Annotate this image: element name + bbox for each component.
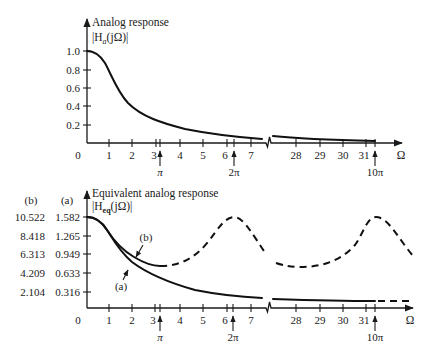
top-analog-response-curve-tail xyxy=(273,136,375,141)
bottom-xtick-label: 29 xyxy=(315,314,327,326)
figure: 1.0 0.8 0.6 0.4 0.2 0 1 2 3 4 5 6 7 xyxy=(0,0,432,352)
top-ytick-label: 1.0 xyxy=(66,45,80,57)
bottom-ytick-b-label: 4.209 xyxy=(20,267,45,279)
bottom-pi-label: π xyxy=(157,331,163,343)
bottom-xtick-label: 4 xyxy=(177,314,183,326)
top-origin-label: 0 xyxy=(75,149,81,161)
bottom-y-axis-label: |Heq(jΩ)| xyxy=(92,200,132,215)
curve-a-tail xyxy=(273,299,375,301)
bottom-chart-title: Equivalent analog response xyxy=(92,187,218,200)
bottom-ytick-b-label: 2.104 xyxy=(20,286,45,298)
bottom-xtick-label: 31 xyxy=(359,314,370,326)
bottom-xtick-label: 1 xyxy=(106,314,112,326)
top-chart: 1.0 0.8 0.6 0.4 0.2 0 1 2 3 4 5 6 7 xyxy=(66,16,405,178)
curve-a-label: (a) xyxy=(115,280,128,293)
top-10pi-label: 10π xyxy=(367,166,384,178)
curve-b-dashed xyxy=(160,217,266,266)
y-column-header-b: (b) xyxy=(25,194,38,207)
top-2pi-label: 2π xyxy=(228,166,240,178)
curve-a xyxy=(87,217,262,298)
top-xtick-label: 5 xyxy=(200,149,206,161)
top-xtick-label: 1 xyxy=(106,149,112,161)
bottom-ytick-a-label: 0.949 xyxy=(55,248,80,260)
bottom-axis-break-icon xyxy=(264,302,274,312)
curve-b-dashed-right xyxy=(276,217,415,267)
bottom-xtick-label: 2 xyxy=(129,314,135,326)
bottom-xtick-label: 7 xyxy=(248,314,254,326)
top-pi-label: π xyxy=(157,166,163,178)
curve-b-pointer-arrow-icon xyxy=(136,245,143,257)
bottom-ytick-b-label: 8.418 xyxy=(20,230,45,242)
bottom-ytick-a-label: 1.582 xyxy=(55,211,80,223)
bottom-xtick-label: 30 xyxy=(338,314,350,326)
top-xtick-label: 2 xyxy=(129,149,135,161)
top-xtick-label: 30 xyxy=(338,149,350,161)
bottom-ytick-a-label: 0.316 xyxy=(55,286,80,298)
top-analog-response-curve xyxy=(87,51,262,139)
bottom-xtick-label: 3 xyxy=(150,314,156,326)
top-ytick-label: 0.4 xyxy=(66,100,80,112)
top-axis-break-icon xyxy=(264,137,274,147)
bottom-ytick-b-label: 10.522 xyxy=(15,211,45,223)
curve-a-pointer-arrow-icon xyxy=(123,270,128,280)
top-y-axis-label: |Ha(jΩ)| xyxy=(92,31,128,46)
top-xtick-label: 4 xyxy=(177,149,183,161)
top-xtick-label: 3 xyxy=(151,149,157,161)
top-xtick-label: 6 xyxy=(222,149,228,161)
bottom-origin-label: 0 xyxy=(75,314,81,326)
top-xtick-label: 29 xyxy=(315,149,327,161)
top-xtick-label: 31 xyxy=(359,149,370,161)
top-xtick-label: 28 xyxy=(291,149,303,161)
bottom-ytick-b-label: 6.313 xyxy=(20,248,45,260)
top-ytick-label: 0.6 xyxy=(66,82,80,94)
top-x-axis-label: Ω xyxy=(397,149,406,161)
bottom-xtick-label: 28 xyxy=(291,314,303,326)
bottom-2pi-label: 2π xyxy=(227,331,239,343)
bottom-ytick-a-label: 1.265 xyxy=(55,230,80,242)
bottom-chart: (b) (a) 10.522 8.418 6.313 4.209 2.104 1… xyxy=(15,187,415,343)
top-ytick-label: 0.2 xyxy=(66,119,80,131)
bottom-ytick-a-label: 0.633 xyxy=(55,267,80,279)
y-column-header-a: (a) xyxy=(61,194,74,207)
bottom-10pi-label: 10π xyxy=(367,331,384,343)
bottom-xtick-label: 5 xyxy=(200,314,206,326)
top-ytick-label: 0.8 xyxy=(66,64,80,76)
bottom-xtick-label: 6 xyxy=(222,314,228,326)
top-xtick-label: 7 xyxy=(248,149,254,161)
bottom-x-axis-label: Ω xyxy=(406,314,415,326)
curve-b-label: (b) xyxy=(140,231,153,244)
top-chart-title: Analog response xyxy=(92,16,169,29)
